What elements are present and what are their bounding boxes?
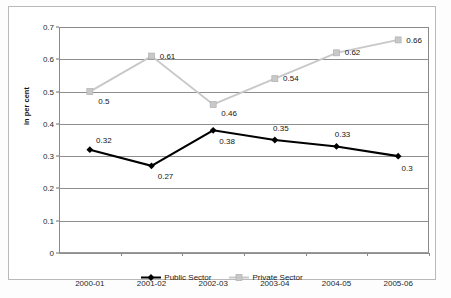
legend-item-public-sector[interactable]: Public Sector [141, 273, 211, 282]
legend-square-marker-icon [229, 273, 249, 282]
data-point-marker [334, 50, 340, 56]
data-point-label: 0.5 [98, 96, 109, 105]
data-point-label: 0.61 [160, 52, 176, 61]
data-point-marker [87, 89, 93, 95]
data-point-label: 0.32 [96, 135, 112, 144]
y-axis-title: in per cent [22, 87, 31, 125]
y-axis-tick-label: 0.5 [43, 87, 54, 96]
chart-legend: Public SectorPrivate Sector [9, 273, 435, 282]
data-point-marker [395, 153, 402, 160]
data-point-label: 0.38 [219, 137, 235, 146]
y-axis-tick-label: 0.4 [43, 119, 54, 128]
data-point-marker [149, 53, 155, 59]
data-point-marker [272, 76, 278, 82]
x-axis-tick-mark [121, 253, 122, 256]
data-point-marker [271, 137, 278, 144]
plot-area: 00.10.20.30.40.50.60.7 2000-012001-02200… [59, 27, 429, 253]
data-point-marker [395, 37, 401, 43]
data-point-marker [86, 146, 93, 153]
legend-item-private-sector[interactable]: Private Sector [229, 273, 302, 282]
data-point-label: 0.33 [335, 130, 351, 139]
data-point-label: 0.62 [345, 47, 361, 56]
y-axis-tick-label: 0 [50, 249, 54, 258]
data-point-label: 0.66 [406, 35, 422, 44]
data-point-marker [210, 101, 216, 107]
data-point-label: 0.35 [273, 124, 289, 133]
data-point-marker [333, 143, 340, 150]
x-axis-tick-mark [367, 253, 368, 256]
legend-label: Public Sector [164, 273, 211, 282]
y-axis-tick-label: 0.2 [43, 184, 54, 193]
line-chart: in per cent 00.10.20.30.40.50.60.7 2000-… [0, 0, 451, 298]
y-axis-tick-label: 0.3 [43, 152, 54, 161]
data-point-label: 0.3 [402, 164, 413, 173]
legend-label: Private Sector [252, 273, 302, 282]
chart-frame: in per cent 00.10.20.30.40.50.60.7 2000-… [8, 6, 436, 280]
data-point-label: 0.27 [158, 171, 174, 180]
y-axis-tick-label: 0.7 [43, 23, 54, 32]
series-plot [59, 27, 429, 253]
x-axis-tick-mark [429, 253, 430, 256]
data-point-label: 0.46 [221, 109, 237, 118]
x-axis-tick-mark [306, 253, 307, 256]
legend-diamond-marker-icon [141, 273, 161, 282]
series-line-public-sector [90, 130, 398, 166]
x-axis-tick-mark [182, 253, 183, 256]
x-axis-tick-mark [244, 253, 245, 256]
y-axis-tick-label: 0.6 [43, 55, 54, 64]
y-axis-tick-label: 0.1 [43, 216, 54, 225]
data-point-label: 0.54 [283, 73, 299, 82]
